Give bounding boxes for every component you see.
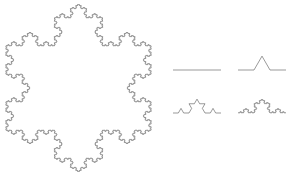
koch-figure-svg <box>0 0 287 179</box>
koch-figure-canvas <box>0 0 287 179</box>
figure-background <box>0 0 287 179</box>
